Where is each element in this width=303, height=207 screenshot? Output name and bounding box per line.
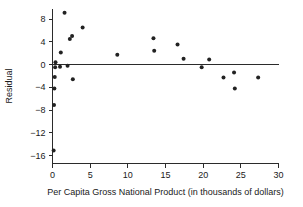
data-point [53, 75, 57, 79]
residual-scatter-plot-figure: 840−4−8−12−16 051015202530 Residual Per … [0, 0, 303, 207]
data-point [233, 86, 237, 90]
data-point [207, 57, 211, 61]
data-point [58, 65, 62, 69]
data-point [182, 57, 186, 61]
data-point [256, 76, 260, 80]
data-point [222, 76, 226, 80]
data-point [176, 43, 180, 47]
data-point [70, 34, 74, 38]
x-tick-label: 15 [160, 170, 170, 180]
y-axis-title: Residual [4, 69, 14, 104]
x-axis-title: Per Capita Gross National Product (in th… [47, 187, 284, 197]
data-point [71, 77, 75, 81]
x-tick-label: 20 [198, 170, 208, 180]
plot-canvas: 840−4−8−12−16 051015202530 Residual Per … [0, 0, 303, 207]
y-tick-label: −4 [35, 82, 45, 92]
data-point [52, 86, 56, 90]
data-point [152, 49, 156, 53]
data-point [151, 36, 155, 40]
data-point [232, 70, 236, 74]
x-axis-tick-labels: 051015202530 [50, 170, 284, 180]
scatter-points-group [52, 11, 261, 153]
y-tick-label: 8 [40, 14, 45, 24]
y-tick-label: 0 [40, 60, 45, 70]
x-axis-tick-group [53, 164, 279, 168]
y-axis-tick-group [49, 19, 53, 156]
data-point [53, 65, 57, 69]
x-tick-label: 0 [50, 170, 55, 180]
x-tick-label: 30 [273, 170, 283, 180]
y-tick-label: −16 [30, 151, 45, 161]
y-tick-label: 4 [40, 37, 45, 47]
data-point [81, 26, 85, 30]
data-point [54, 60, 58, 64]
y-tick-label: −8 [35, 105, 45, 115]
data-point [115, 53, 119, 57]
x-tick-label: 25 [236, 170, 246, 180]
data-point [200, 65, 204, 69]
data-point [63, 11, 67, 15]
data-point [52, 103, 56, 107]
data-point [66, 64, 70, 68]
x-tick-label: 5 [88, 170, 93, 180]
y-tick-label: −12 [30, 128, 45, 138]
data-point [52, 148, 56, 152]
data-point [59, 51, 63, 55]
x-tick-label: 10 [123, 170, 133, 180]
y-axis-tick-labels: 840−4−8−12−16 [30, 14, 45, 161]
